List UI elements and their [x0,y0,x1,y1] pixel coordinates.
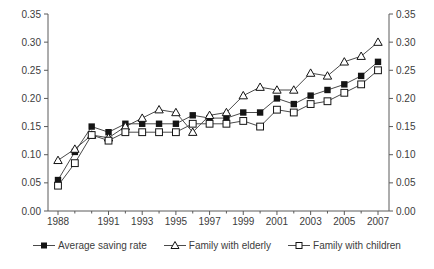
chart-legend: Average saving rate Family with elderly … [0,240,434,251]
y-tick-label-left: 0.00 [22,206,42,217]
marker-open-square [206,120,213,127]
marker-open-square [139,129,146,136]
y-tick-label-right: 0.25 [396,65,416,76]
x-tick-label: 2007 [367,216,390,227]
marker-filled-square [173,121,179,127]
chart-container: 0.000.000.050.050.100.100.150.150.200.20… [0,0,434,269]
marker-filled-square [291,101,297,107]
marker-open-square [189,120,196,127]
marker-filled-square [307,92,313,98]
marker-open-triangle [54,156,62,163]
marker-open-square [71,160,78,167]
legend-label-average-saving-rate: Average saving rate [58,240,147,251]
legend-item-average-saving-rate: Average saving rate [33,240,147,251]
marker-filled-square [88,123,94,129]
marker-open-triangle [138,114,146,121]
y-tick-label-left: 0.35 [22,9,42,20]
x-tick-label: 2001 [266,216,289,227]
y-tick-label-left: 0.15 [22,121,42,132]
marker-open-square [240,118,247,125]
marker-open-square [223,120,230,127]
marker-open-triangle [306,69,314,76]
y-tick-label-left: 0.20 [22,93,42,104]
legend-label-family-with-children: Family with children [313,240,401,251]
x-tick-label: 1993 [131,216,154,227]
x-tick-label: 1999 [232,216,255,227]
marker-open-triangle [239,91,247,98]
marker-filled-square [240,109,246,115]
filled-square-marker-icon [33,241,55,250]
y-tick-label-left: 0.30 [22,37,42,48]
y-tick-label-right: 0.15 [396,121,416,132]
marker-open-square [307,101,314,108]
marker-open-square [358,81,365,88]
x-tick-label: 1995 [165,216,188,227]
y-tick-label-right: 0.30 [396,37,416,48]
x-tick-label: 1997 [198,216,221,227]
marker-open-square [55,182,62,189]
legend-item-family-with-elderly: Family with elderly [164,240,271,251]
marker-open-square [105,137,112,144]
marker-open-square [375,67,382,74]
marker-filled-square [358,73,364,79]
y-tick-label-left: 0.25 [22,65,42,76]
x-tick-label: 2003 [300,216,323,227]
x-tick-label: 1991 [97,216,120,227]
marker-filled-square [375,59,381,65]
x-tick-label: 2005 [333,216,356,227]
y-tick-label-right: 0.00 [396,206,416,217]
marker-open-square [122,129,129,136]
marker-filled-square [324,87,330,93]
y-tick-label-left: 0.05 [22,177,42,188]
marker-open-square [172,129,179,136]
marker-open-square [156,129,163,136]
marker-filled-square [274,95,280,101]
marker-open-square [324,98,331,105]
marker-open-square [274,106,281,113]
open-triangle-marker-icon [164,241,186,250]
marker-filled-square [341,81,347,87]
y-tick-label-right: 0.20 [396,93,416,104]
marker-open-triangle [155,105,163,112]
open-square-marker-icon [288,241,310,250]
marker-open-square [290,109,297,116]
x-tick-label: 1988 [47,216,70,227]
marker-open-square [341,89,348,96]
legend-item-family-with-children: Family with children [288,240,401,251]
marker-open-square [88,132,95,139]
y-tick-label-right: 0.05 [396,177,416,188]
legend-label-family-with-elderly: Family with elderly [189,240,271,251]
y-tick-label-right: 0.35 [396,9,416,20]
marker-filled-square [156,121,162,127]
marker-filled-square [257,109,263,115]
y-tick-label-left: 0.10 [22,149,42,160]
marker-open-triangle [256,83,264,90]
y-tick-label-right: 0.10 [396,149,416,160]
marker-open-square [257,123,264,130]
marker-open-triangle [374,38,382,45]
saving-rate-chart: 0.000.000.050.050.100.100.150.150.200.20… [0,0,434,238]
marker-filled-square [190,112,196,118]
